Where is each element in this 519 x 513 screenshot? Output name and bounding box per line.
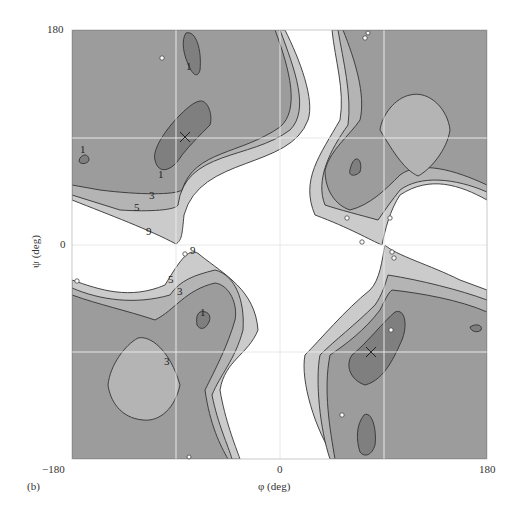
x-tick-0: 0: [277, 463, 283, 475]
label-9: 9: [146, 225, 152, 237]
y-tick-0: 0: [60, 238, 66, 250]
panel-label: (b): [27, 480, 40, 492]
y-axis-label: ψ (deg): [29, 235, 41, 268]
ramachandran-contour-plot: 1 1 1 3 5 9 9 5 3 1 3 180 0 −180 0 180 φ…: [0, 0, 519, 513]
plot-svg: 1 1 1 3 5 9 9 5 3 1 3: [0, 0, 519, 513]
x-tick-neg180: −180: [42, 463, 65, 475]
label-1: 1: [186, 60, 192, 72]
label-9: 9: [190, 244, 196, 256]
label-5: 5: [168, 273, 174, 285]
y-tick-180: 180: [47, 23, 64, 35]
label-3: 3: [149, 189, 155, 201]
x-tick-180: 180: [479, 463, 496, 475]
label-5: 5: [134, 201, 140, 213]
label-1: 1: [158, 168, 164, 180]
label-3: 3: [177, 285, 183, 297]
label-1: 1: [200, 306, 206, 318]
label-1: 1: [80, 143, 86, 155]
x-axis-label: φ (deg): [258, 480, 290, 492]
label-3: 3: [164, 355, 170, 367]
